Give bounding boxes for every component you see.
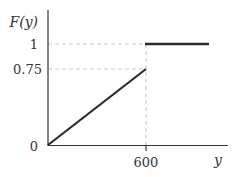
cdf-chart: F(y) 1 0.75 0 600 y (0, 0, 238, 177)
y-tick-label-1: 1 (30, 37, 38, 52)
y-axis-label: F(y) (8, 14, 38, 30)
cdf-segment-1 (48, 69, 146, 145)
x-tick-label-600: 600 (134, 155, 159, 170)
y-tick-label-0: 0 (30, 139, 38, 154)
x-axis-label: y (213, 152, 223, 168)
y-tick-label-075: 0.75 (13, 62, 42, 77)
